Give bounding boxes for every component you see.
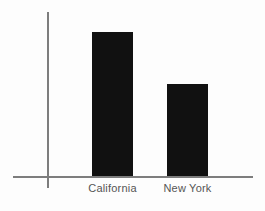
x-tick-label-california: California (72, 182, 153, 195)
x-axis-line (13, 176, 253, 178)
bar-new-york (167, 84, 208, 177)
x-tick-label-new-york: New York (150, 182, 225, 195)
y-axis-line (47, 12, 49, 188)
plot-area (0, 0, 265, 177)
bar-california (92, 32, 133, 177)
bar-chart: California New York (0, 0, 265, 211)
